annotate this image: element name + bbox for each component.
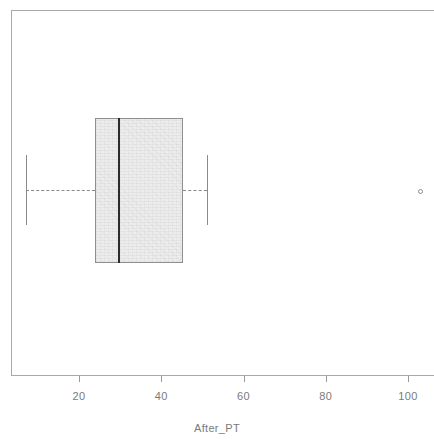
x-tick-label-20: 20 (59, 390, 99, 402)
boxplot-figure: 20406080100 After_PT (0, 0, 434, 440)
x-tick-20 (79, 376, 80, 382)
x-tick-label-80: 80 (306, 390, 346, 402)
x-tick-60 (244, 376, 245, 382)
whisker-line-lower (26, 190, 95, 191)
median-line (118, 118, 120, 263)
box-fill-texture (96, 119, 182, 262)
outlier-marker (418, 189, 423, 194)
whisker-line-upper (183, 190, 207, 191)
x-tick-80 (326, 376, 327, 382)
x-axis-title: After_PT (0, 422, 434, 434)
x-tick-40 (161, 376, 162, 382)
x-tick-label-60: 60 (224, 390, 264, 402)
x-tick-100 (408, 376, 409, 382)
whisker-cap-upper (207, 155, 208, 225)
box-iqr (95, 118, 183, 263)
x-tick-label-40: 40 (141, 390, 181, 402)
plot-frame (11, 10, 434, 376)
x-tick-label-100: 100 (388, 390, 428, 402)
